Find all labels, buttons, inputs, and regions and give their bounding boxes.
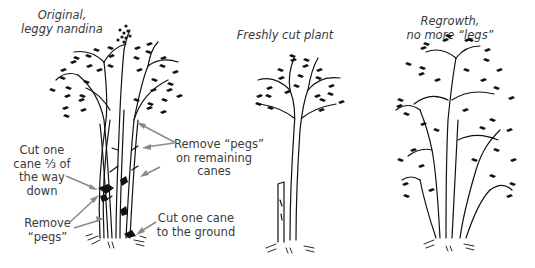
pruning-diagram: Original, leggy nandina Freshly cut plan…	[0, 0, 535, 268]
plant-regrowth-icon	[396, 34, 517, 251]
arrowhead-icon	[89, 184, 98, 190]
plant-fresh-cut-icon	[255, 54, 345, 253]
arrowhead-icon	[142, 144, 151, 150]
arrowhead-icon	[140, 170, 149, 177]
illustration	[0, 0, 535, 268]
arrowhead-icon	[136, 227, 145, 235]
